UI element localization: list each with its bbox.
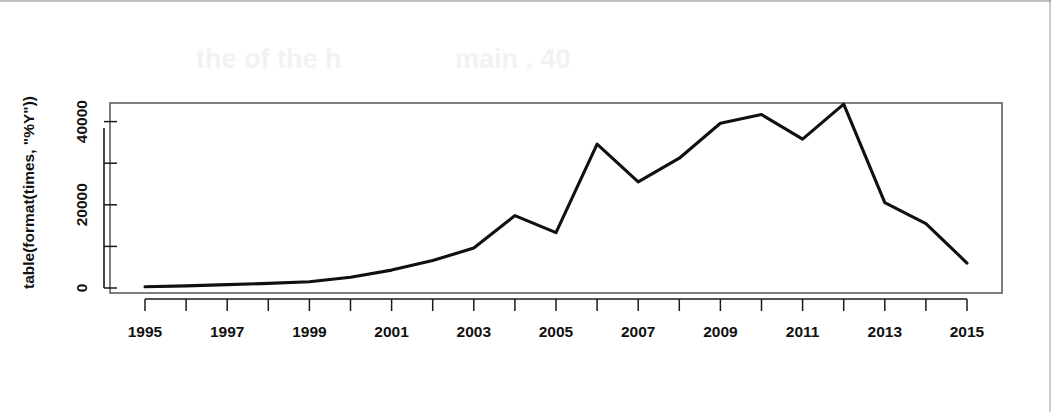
data-series-line — [145, 104, 967, 287]
y-axis-title: table(format(times, "%Y")) — [20, 96, 37, 289]
x-tick-label: 2001 — [374, 323, 409, 340]
plot-frame — [110, 103, 1002, 293]
x-tick-label: 1999 — [292, 323, 327, 340]
y-tick-label: 0 — [73, 284, 90, 293]
figure-page: the of the h main . 40 table(format(time… — [0, 0, 1051, 412]
x-tick-label: 2005 — [539, 323, 574, 340]
x-tick-label: 2011 — [786, 323, 820, 340]
y-tick-label: 20000 — [73, 183, 90, 226]
x-tick-label: 2013 — [868, 323, 903, 340]
x-tick-label: 1995 — [128, 323, 163, 340]
x-tick-label: 2015 — [950, 323, 985, 340]
x-tick-label: 2007 — [621, 323, 655, 340]
y-tick-label: 40000 — [73, 100, 90, 143]
x-tick-label: 1997 — [210, 323, 244, 340]
x-tick-group — [145, 299, 967, 311]
x-tick-label-group: 1995199719992001200320052007200920112013… — [128, 323, 985, 340]
x-tick-label: 2003 — [457, 323, 492, 340]
y-tick-label-group: 02000040000 — [73, 100, 90, 292]
line-chart: table(format(times, "%Y")) 02000040000 1… — [0, 0, 1051, 412]
x-tick-label: 2009 — [703, 323, 738, 340]
